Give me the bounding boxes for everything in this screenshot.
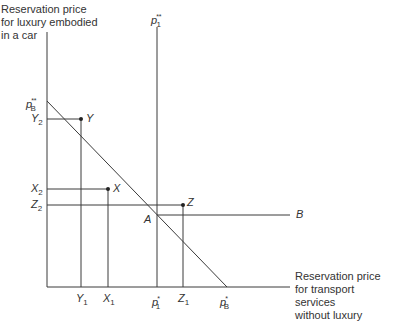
p1-double-star-label: p**1 [151,10,161,31]
point-y-marker [79,117,83,121]
label-sub: 1 [156,302,160,311]
y-tick-y2: Y2 [31,112,43,129]
y-axis-title-line1: Reservation price [1,3,98,16]
label-sup: * [157,295,160,302]
budget-line [47,101,227,287]
label-base: Z [31,198,38,210]
intersection-a-label: A [144,213,151,226]
label-base: Z [178,292,185,304]
y-axis-title-line3: in a car [1,29,98,42]
label-sub: B [224,302,229,311]
x-tick-x1: X1 [103,292,115,309]
point-z-label: Z [187,196,194,209]
label-sub: 1 [185,298,189,307]
x-axis-title: Reservation price for transport services… [295,270,393,322]
label-sup: ** [31,97,36,104]
point-z-marker [181,203,185,207]
x-tick-p1-star: p*1 [152,292,160,313]
x-axis-title-line2: for transport services [295,283,393,309]
x-axis-title-line1: Reservation price [295,270,393,283]
y-axis-title: Reservation price for luxury embodied in… [1,3,98,42]
x-axis-title-line3: without luxury [295,309,393,322]
point-x-marker [106,187,110,191]
x-tick-y1: Y1 [76,292,88,309]
label-sub: 1 [110,298,114,307]
label-sub: 1 [157,20,161,29]
x-tick-pb-star: p*B [220,292,229,313]
y-axis-title-line2: for luxury embodied [1,16,98,29]
line-end-b-label: B [296,208,303,221]
point-y-label: Y [86,112,93,125]
label-sub: 1 [83,298,87,307]
x-tick-z1: Z1 [178,292,189,309]
y-tick-z2: Z2 [31,198,42,215]
y-tick-x2: X2 [31,182,43,199]
label-sup: ** [156,13,161,20]
label-sub: 2 [38,188,42,197]
label-sub: 2 [38,118,42,127]
point-x-label: X [113,182,120,195]
label-sub: 2 [38,204,42,213]
label-sup: * [225,295,228,302]
